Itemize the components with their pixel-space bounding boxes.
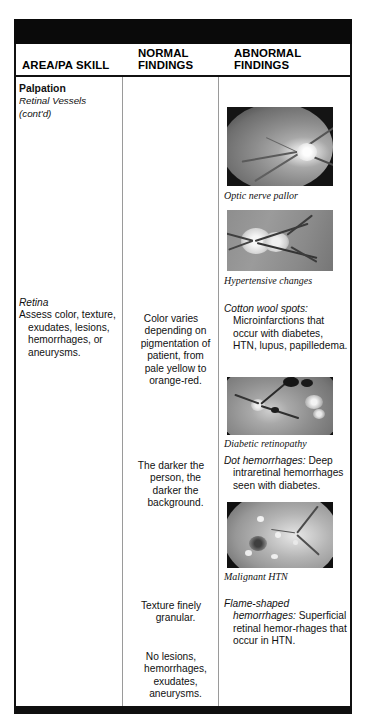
fundus-photo-hypertensive-changes [227,210,333,271]
area-retina-block: Retina Assess color, texture, exudates, … [19,297,119,359]
fundus-photo-optic-nerve-pallor [227,107,333,186]
fundus-photo-diabetic-retinopathy [227,377,333,435]
normal-finding-item: The darker the person, the darker the ba… [128,460,214,510]
abnormal-finding-lead: Flame-shaped hemorrhages: [224,598,296,621]
section-title-palpation: Palpation [19,83,119,95]
retina-assessment-text: Assess color, texture, exudates, lesions… [19,309,119,359]
abnormal-finding-lead: Cotton wool spots: [224,303,308,314]
abnormal-finding-item: Cotton wool spots: Microinfarctions that… [224,303,348,353]
column-divider-2 [218,77,219,706]
figure-caption: Malignant HTN [224,571,288,582]
document-page: AREA/PA SKILL NORMAL FINDINGS ABNORMAL F… [0,0,367,717]
normal-finding-item: Texture finely granular. [128,600,214,625]
fundus-photo-malignant-htn [227,502,333,568]
figure-caption: Optic nerve pallor [224,190,298,201]
area-section-heading: Palpation Retinal Vessels (cont'd) [19,83,119,120]
figure-caption: Diabetic retinopathy [224,438,307,449]
abnormal-finding-text: Microinfarctions that occur with diabete… [233,315,347,351]
abnormal-finding-item: Flame-shaped hemorrhages: Superficial re… [224,598,348,648]
subsection-title-retina: Retina [19,297,119,309]
figure-caption: Hypertensive changes [224,275,312,286]
subsection-retinal-vessels: Retinal Vessels (cont'd) [19,95,119,120]
header-rule [14,19,352,44]
abnormal-finding-lead: Dot hemorrhages: [224,455,306,466]
normal-finding-item: No lesions, hemorrhages, exudates, aneur… [128,651,214,701]
column-divider-1 [122,77,123,706]
normal-finding-item: Color varies depending on pigmentation o… [128,313,214,387]
abnormal-finding-item: Dot hemorrhages: Deep intraretinal hemor… [224,455,348,492]
footer-rule [14,706,352,714]
